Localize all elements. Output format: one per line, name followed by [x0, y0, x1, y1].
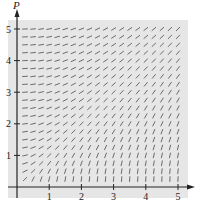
y-tick-label: 3	[6, 87, 11, 98]
x-tick-label: 4	[143, 191, 148, 202]
x-axis-arrow-icon	[187, 185, 195, 190]
x-tick-label: 2	[79, 191, 84, 202]
slope-segment	[30, 29, 36, 30]
slope-segment	[97, 176, 98, 182]
slope-field-chart: 12345 12345 P	[0, 0, 197, 209]
y-tick-label: 2	[6, 118, 11, 129]
slope-segment	[22, 108, 28, 109]
x-tick-label: 1	[47, 191, 52, 202]
y-tick-label: 4	[6, 55, 11, 66]
y-axis-label: P	[12, 0, 20, 11]
slope-segment	[105, 176, 106, 182]
x-tick-label: 3	[111, 191, 116, 202]
y-tick-label: 1	[6, 150, 11, 161]
x-tick-label: 5	[176, 191, 181, 202]
slope-segment	[178, 168, 179, 174]
y-tick-label: 5	[6, 24, 11, 35]
